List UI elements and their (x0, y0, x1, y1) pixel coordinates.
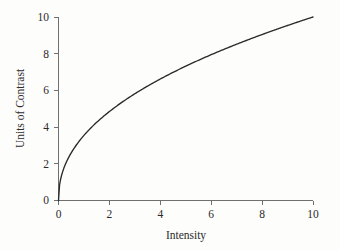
x-tick-label-2: 2 (107, 208, 113, 220)
y-tick-label-8: 8 (43, 48, 49, 60)
contrast-response-curve (59, 17, 314, 201)
x-axis-ticks (59, 201, 314, 206)
y-axis-ticks (54, 17, 59, 201)
plot-canvas: 0 2 4 6 8 10 0 2 4 6 8 10 Intensity Unit… (0, 0, 340, 250)
y-axis-tick-labels: 0 2 4 6 8 10 (38, 11, 50, 207)
y-tick-label-4: 4 (43, 121, 49, 133)
y-tick-label-10: 10 (38, 11, 50, 23)
y-tick-label-2: 2 (43, 158, 49, 170)
chart-figure: 0 2 4 6 8 10 0 2 4 6 8 10 Intensity Unit… (0, 0, 340, 250)
x-axis-title: Intensity (166, 229, 206, 242)
x-tick-label-0: 0 (56, 208, 62, 220)
y-axis-title: Units of Contrast (14, 68, 26, 148)
x-tick-label-4: 4 (157, 208, 163, 220)
x-tick-label-6: 6 (208, 208, 214, 220)
y-tick-label-6: 6 (43, 84, 49, 96)
y-tick-label-0: 0 (43, 194, 49, 206)
x-tick-label-8: 8 (259, 208, 265, 220)
x-tick-label-10: 10 (307, 208, 319, 220)
x-axis-tick-labels: 0 2 4 6 8 10 (56, 208, 319, 220)
